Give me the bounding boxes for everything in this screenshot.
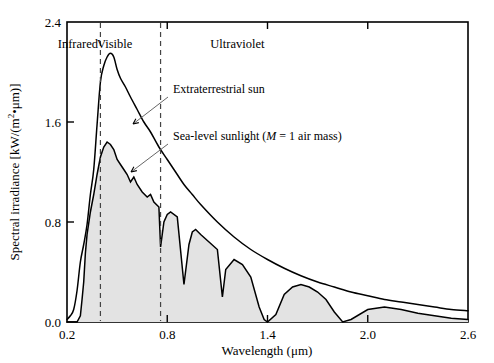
y-tick-label: 0.0 (45, 315, 61, 330)
annotation-extraterrestrial-sun: Extraterrestrial sun (173, 82, 265, 96)
region-label-ultraviolet: Ultraviolet (210, 37, 265, 51)
x-tick-label: 2.0 (360, 327, 376, 342)
y-tick-label: 0.8 (45, 215, 61, 230)
y-tick-label: 1.6 (45, 115, 62, 130)
region-label-infrared: Infrared (58, 37, 99, 51)
leader-line-1 (131, 144, 168, 172)
y-axis-tick-labels: 0.00.81.62.4 (45, 15, 62, 330)
x-tick-label: 0.8 (159, 327, 175, 342)
x-tick-label: 1.4 (259, 327, 276, 342)
x-tick-label: 2.6 (460, 327, 477, 342)
y-tick-label: 2.4 (45, 15, 62, 30)
sea-level-area-fill (67, 142, 468, 322)
x-axis-title: Wavelength (μm) (222, 343, 313, 358)
annotation-sea-level-sunlight: Sea-level sunlight (M = 1 air mass) (173, 129, 342, 143)
solar-spectral-irradiance-figure: 0.20.81.42.02.6 0.00.81.62.4 InfraredVis… (0, 0, 494, 363)
chart-canvas: 0.20.81.42.02.6 0.00.81.62.4 InfraredVis… (0, 0, 494, 363)
x-tick-label: 0.2 (59, 327, 75, 342)
y-axis-title: Spectral irradiance [kW/(m2•μm)] (6, 83, 22, 260)
x-axis-tick-labels: 0.20.81.42.02.6 (59, 327, 477, 342)
region-label-visible: Visible (97, 37, 133, 51)
spectral-region-labels: InfraredVisibleUltraviolet (58, 37, 265, 51)
